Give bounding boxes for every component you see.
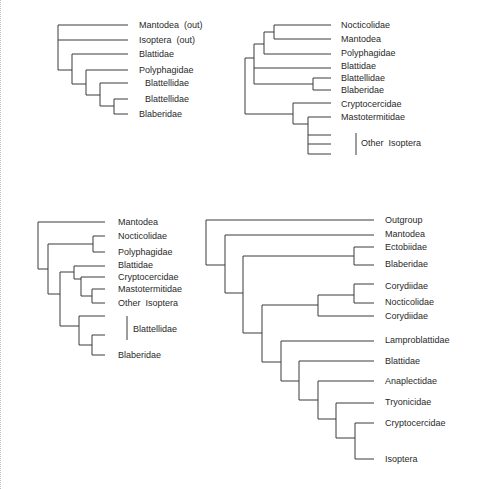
taxon-label: Cryptocercidae xyxy=(385,418,446,428)
taxon-label: Blaberidae xyxy=(385,259,428,269)
taxon-label: Nocticolidae xyxy=(385,297,434,307)
taxon-label: Corydiidae xyxy=(385,311,428,321)
taxon-label: Blattellidae xyxy=(341,73,385,83)
taxon-label: Blattellidae xyxy=(145,78,189,88)
taxon-label: Blaberidae xyxy=(118,350,161,360)
taxon-label: Blattidae xyxy=(118,260,153,270)
taxon-label: Cryptocercidae xyxy=(118,272,179,282)
tree-2-branches xyxy=(245,25,356,155)
taxon-label: Blattidae xyxy=(341,61,376,71)
taxon-label: Blattidae xyxy=(139,49,174,59)
taxon-label: Mastotermitidae xyxy=(118,284,182,294)
taxon-label: Ectobiidae xyxy=(385,242,427,252)
taxon-label: Corydiidae xyxy=(385,281,428,291)
taxon-label: Cryptocercidae xyxy=(341,99,402,109)
taxon-label: Tryonicidae xyxy=(385,397,431,407)
taxon-label: Polyphagidae xyxy=(341,48,396,58)
taxon-label: Anaplectidae xyxy=(385,376,437,386)
taxon-label: Polyphagidae xyxy=(118,247,173,257)
tree-1-branches xyxy=(58,25,128,114)
taxon-label: Nocticolidae xyxy=(341,20,390,30)
taxon-label: Mantodea (out) xyxy=(139,20,203,30)
taxon-label: Blattidae xyxy=(385,356,420,366)
taxon-label: Nocticolidae xyxy=(118,231,167,241)
group-label: Other Isoptera xyxy=(361,138,421,148)
tree-4-branches xyxy=(206,220,374,459)
taxon-label: Blaberidae xyxy=(341,85,384,95)
taxon-label: Lamproblattidae xyxy=(385,335,450,345)
taxon-label: Blattellidae xyxy=(145,94,189,104)
taxon-label: Isoptera (out) xyxy=(139,35,195,45)
taxon-label: Polyphagidae xyxy=(139,65,194,75)
group-label: Blattellidae xyxy=(133,324,177,334)
taxon-label: Blaberidae xyxy=(139,109,182,119)
taxon-label: Other Isoptera xyxy=(118,298,178,308)
taxon-label: Mantodea xyxy=(118,217,158,227)
taxon-label: Mastotermitidae xyxy=(341,112,405,122)
taxon-label: Mantodea xyxy=(385,229,425,239)
tree-3-branches xyxy=(38,222,127,355)
taxon-label: Outgroup xyxy=(385,215,423,225)
taxon-label: Mantodea xyxy=(341,34,381,44)
taxon-label: Isoptera xyxy=(385,454,418,464)
